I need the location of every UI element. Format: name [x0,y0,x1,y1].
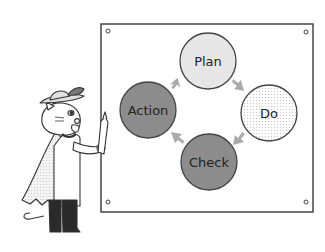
node-label: Action [128,103,169,118]
node-action: Action [120,82,176,138]
boots [49,200,61,232]
pdca-illustration: Plan Do Check Action [0,0,325,252]
cat-character [22,88,108,232]
node-label: Do [260,106,278,121]
node-label: Check [189,155,229,170]
node-plan: Plan [180,33,236,89]
node-do: Do [241,85,297,141]
node-check: Check [181,134,237,190]
node-label: Plan [194,54,222,69]
feather [68,88,84,96]
